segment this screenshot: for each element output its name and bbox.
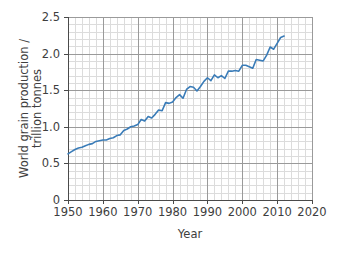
y-tick-label: 2.0	[42, 47, 60, 61]
x-tick-label: 1990	[193, 205, 222, 219]
x-tick-label: 1960	[88, 205, 117, 219]
x-axis-title: Year	[177, 227, 203, 241]
line-chart: 19501960197019801990200020102020 00.51.0…	[0, 0, 339, 254]
x-tick-label: 2000	[228, 205, 257, 219]
y-tick-label: 2.5	[42, 10, 60, 24]
x-tick-label: 1980	[158, 205, 187, 219]
x-tick-label: 1970	[123, 205, 152, 219]
x-tick-label: 2010	[263, 205, 292, 219]
y-tick-label: 1.5	[42, 83, 60, 97]
x-tick-label: 2020	[297, 205, 326, 219]
chart-figure: 19501960197019801990200020102020 00.51.0…	[0, 0, 339, 254]
y-tick-label: 1.0	[42, 120, 60, 134]
y-tick-label: 0	[53, 193, 60, 207]
x-tick-label: 1950	[53, 205, 82, 219]
y-axis-title-line2: trillion tonnes	[30, 69, 44, 148]
y-tick-label: 0.5	[42, 156, 60, 170]
y-axis-title-line1: World grain production /	[17, 39, 31, 178]
